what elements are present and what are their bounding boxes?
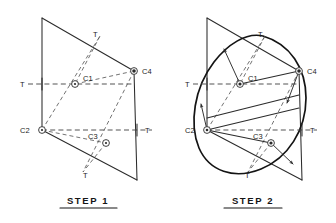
caption-step1: STEP 1 <box>67 195 109 206</box>
label-t-left-step1: T <box>20 80 25 89</box>
label-t-bottom-step1: T <box>83 171 88 180</box>
center-c2-step2 <box>204 127 211 134</box>
label-t-right-step2: T <box>310 126 315 135</box>
radius-arrows-step2 <box>201 49 299 164</box>
tangent-ticks-step2 <box>207 78 302 136</box>
center-c1-step1 <box>72 81 79 88</box>
label-c2-step1: C2 <box>20 126 30 135</box>
center-c3-step2 <box>268 140 275 147</box>
label-c4-step1: C4 <box>142 67 152 76</box>
label-c3-step1: C3 <box>88 132 98 141</box>
caption-step2: STEP 2 <box>232 195 274 206</box>
center-c2-step1 <box>39 127 46 134</box>
label-t-top-step2: T <box>258 30 263 39</box>
four-center-ellipse-figure: C1 C2 C3 C4 T T T T STEP 1 <box>0 0 336 223</box>
center-c1-step2 <box>237 81 244 88</box>
label-c1-step2: C1 <box>248 74 258 83</box>
tangent-ticks-step1 <box>42 78 137 136</box>
panel-step2: C1 C2 C3 C4 T T T T STEP 2 <box>185 18 317 208</box>
label-c4-step2: C4 <box>307 67 317 76</box>
center-c3-step1 <box>103 140 110 147</box>
radius-arrow-c4 <box>287 71 299 103</box>
label-t-right-step1: T <box>145 126 150 135</box>
radius-arrow-c1 <box>224 49 240 84</box>
center-c4-step1 <box>131 68 138 75</box>
construction-lines-step2 <box>193 36 317 172</box>
label-c2-step2: C2 <box>185 126 195 135</box>
parallelogram-outline-step2 <box>207 18 302 180</box>
label-t-top-step1: T <box>93 30 98 39</box>
label-c3-step2: C3 <box>253 132 263 141</box>
panel-step1: C1 C2 C3 C4 T T T T STEP 1 <box>20 18 152 208</box>
diagram-canvas: C1 C2 C3 C4 T T T T STEP 1 <box>0 0 336 223</box>
label-t-bottom-step2: T <box>245 171 250 180</box>
center-c4-step2 <box>296 68 303 75</box>
label-c1-step1: C1 <box>83 74 93 83</box>
label-t-left-step2: T <box>185 80 190 89</box>
radius-arrow-c2 <box>201 104 207 130</box>
parallelogram-outline-step1 <box>42 18 137 180</box>
construction-lines-step1 <box>28 36 152 172</box>
